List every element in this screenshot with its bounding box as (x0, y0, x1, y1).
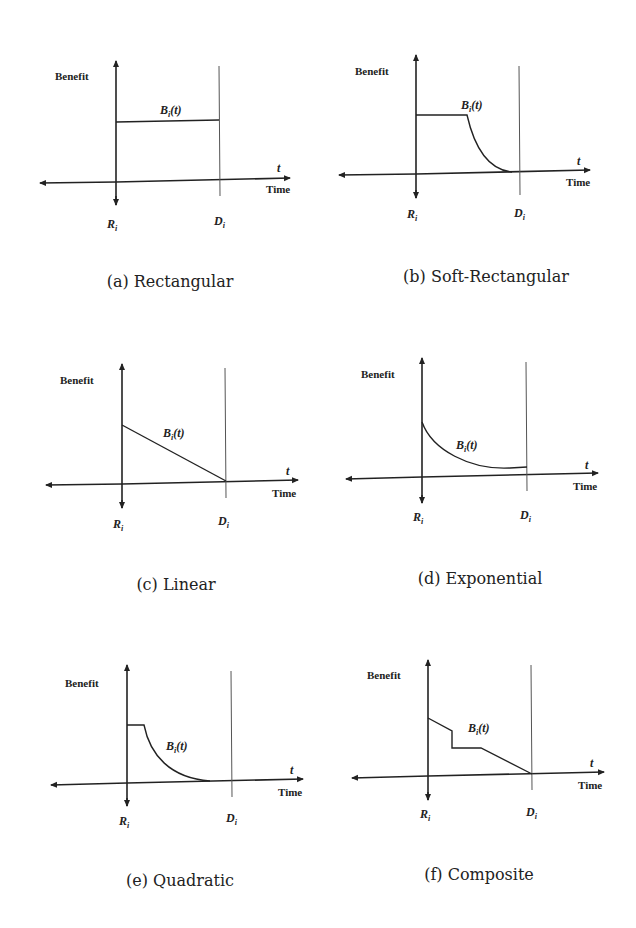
x-axis-left (40, 182, 116, 183)
caption: (a) Rectangular (107, 272, 234, 291)
t-label: t (585, 458, 589, 472)
y-axis-label: Benefit (65, 677, 99, 689)
function-label: Bi(t) (460, 98, 483, 114)
caption: (e) Quadratic (126, 871, 234, 890)
benefit-curve (416, 115, 512, 172)
deadline-line (526, 362, 527, 491)
x-axis-left (346, 477, 422, 479)
x-axis-right (122, 480, 298, 484)
benefit-curve (127, 725, 210, 781)
function-label: Bi(t) (165, 739, 188, 755)
release-label: Ri (419, 807, 431, 823)
release-label: Ri (412, 510, 424, 526)
x-axis-left (339, 174, 416, 175)
deadline-label: Di (519, 508, 532, 524)
y-axis-label: Benefit (367, 669, 401, 681)
deadline-line (531, 665, 532, 790)
caption: (f) Composite (424, 865, 534, 884)
panel-d: Benefit Bi(t) t Time Ri Di (d) Exponenti… (346, 358, 598, 588)
deadline-line (231, 671, 232, 797)
benefit-functions-figure: Benefit Bi(t) t Time Ri Di (a) Rectangul… (0, 0, 636, 928)
x-axis-label: Time (266, 183, 290, 195)
panel-c: Benefit Bi(t) t Time Ri Di (c) Linear (46, 364, 298, 594)
release-label: Ri (406, 207, 418, 223)
function-label: Bi(t) (162, 426, 185, 442)
deadline-label: Di (225, 811, 238, 827)
x-axis-right (428, 772, 604, 776)
panel-e: Benefit Bi(t) t Time Ri Di (e) Quadratic (51, 665, 303, 890)
x-axis-left (46, 484, 122, 485)
deadline-line (519, 66, 520, 195)
deadline-label: Di (217, 514, 230, 530)
x-axis-label: Time (578, 779, 602, 791)
caption: (d) Exponential (418, 569, 543, 588)
t-label: t (277, 161, 281, 175)
t-label: t (286, 464, 290, 478)
panel-a: Benefit Bi(t) t Time Ri Di (a) Rectangul… (40, 61, 290, 291)
deadline-label: Di (525, 805, 538, 821)
release-label: Ri (112, 517, 124, 533)
deadline-label: Di (513, 206, 526, 222)
t-label: t (290, 763, 294, 777)
x-axis-right (116, 178, 290, 182)
x-axis-left (51, 783, 127, 785)
caption: (b) Soft-Rectangular (403, 267, 569, 286)
x-axis-label: Time (272, 487, 296, 499)
release-label: Ri (118, 814, 130, 830)
panel-b: Benefit Bi(t) t Time Ri Di (b) Soft-Rect… (339, 55, 590, 286)
function-label: Bi(t) (455, 438, 478, 454)
deadline-line (219, 66, 220, 196)
benefit-curve (116, 120, 219, 122)
function-label: Bi(t) (467, 721, 490, 737)
panel-f: Benefit Bi(t) t Time Ri Di (f) Composite (352, 660, 604, 884)
y-axis-label: Benefit (55, 70, 89, 82)
deadline-label: Di (213, 214, 226, 230)
x-axis-label: Time (278, 786, 302, 798)
t-label: t (577, 154, 581, 168)
x-axis-label: Time (573, 480, 597, 492)
y-axis-label: Benefit (355, 65, 389, 77)
deadline-line (225, 368, 226, 498)
caption: (c) Linear (136, 575, 216, 594)
x-axis-label: Time (566, 176, 590, 188)
y-axis-label: Benefit (60, 374, 94, 386)
x-axis-left (352, 776, 428, 778)
x-axis-right (127, 779, 303, 783)
y-axis-label: Benefit (361, 368, 395, 380)
x-axis-right (422, 473, 598, 477)
release-label: Ri (106, 217, 118, 233)
function-label: Bi(t) (159, 103, 182, 119)
t-label: t (590, 756, 594, 770)
